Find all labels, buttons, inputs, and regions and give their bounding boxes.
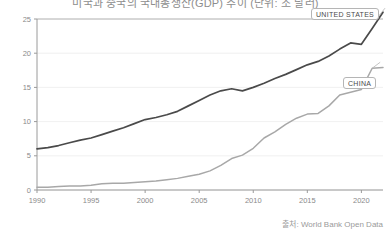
svg-text:20: 20 xyxy=(23,49,31,58)
svg-text:2020: 2020 xyxy=(353,196,370,205)
svg-text:5: 5 xyxy=(27,151,31,160)
y-axis-ticks: 0510152025 xyxy=(23,15,37,195)
svg-text:0: 0 xyxy=(27,186,31,195)
svg-text:2005: 2005 xyxy=(191,196,208,205)
svg-text:2015: 2015 xyxy=(299,196,316,205)
series-label-united-states: UNITED STATES xyxy=(311,8,379,20)
svg-text:2000: 2000 xyxy=(137,196,154,205)
series-line-united-states xyxy=(37,12,383,149)
chart-plot-area: 0510152025 1990199520002005201020152020 xyxy=(0,0,391,233)
source-attribution: 출처: World Bank Open Data xyxy=(282,218,383,229)
svg-text:10: 10 xyxy=(23,117,31,126)
svg-text:2010: 2010 xyxy=(245,196,262,205)
series-line-china xyxy=(37,68,383,188)
svg-text:25: 25 xyxy=(23,15,31,24)
svg-text:1990: 1990 xyxy=(29,196,46,205)
x-axis-ticks: 1990199520002005201020152020 xyxy=(29,190,370,205)
svg-text:1995: 1995 xyxy=(83,196,100,205)
gdp-line-chart: 미국과 중국의 국내총생산(GDP) 추이 (단위: 조 달러) 0510152… xyxy=(0,0,391,233)
svg-text:15: 15 xyxy=(23,83,31,92)
data-series-group xyxy=(37,12,383,187)
series-label-china: CHINA xyxy=(343,77,376,89)
